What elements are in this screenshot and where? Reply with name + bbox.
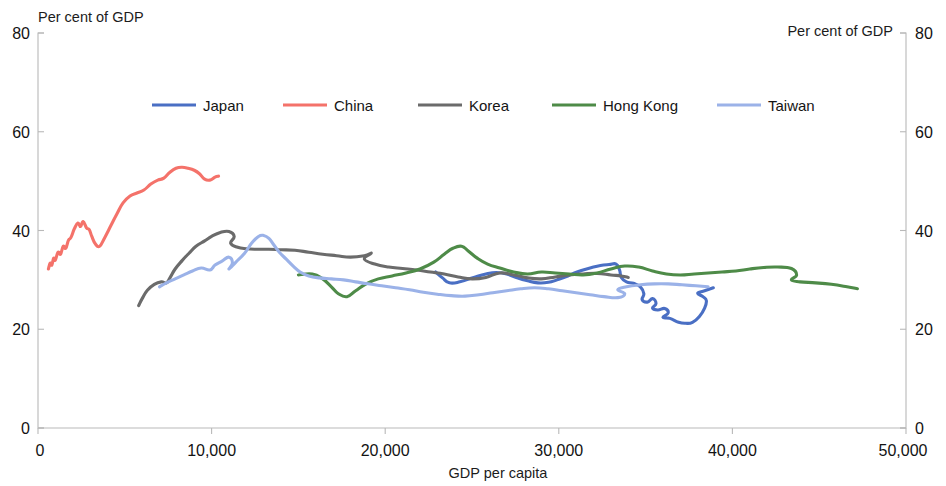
legend-label: Hong Kong <box>603 97 678 114</box>
y-label-right-80: 80 <box>915 25 933 42</box>
legend-item-taiwan[interactable]: Taiwan <box>717 97 815 114</box>
series-line-china <box>48 167 218 269</box>
right-axis-header: Per cent of GDP <box>787 23 893 39</box>
legend-item-hong-kong[interactable]: Hong Kong <box>552 97 678 114</box>
y-axis-right-ticks <box>900 33 906 428</box>
left-axis-header: Per cent of GDP <box>38 9 144 25</box>
legend-label: Japan <box>203 97 244 114</box>
y-label-left-0: 0 <box>21 420 30 437</box>
y-label-left-20: 20 <box>12 321 30 338</box>
x-label-0: 0 <box>36 442 45 459</box>
chart-svg: 80 60 40 20 0 80 60 40 20 0 0 10,000 20,… <box>0 0 946 486</box>
x-label-10000: 10,000 <box>187 442 236 459</box>
y-label-right-0: 0 <box>915 420 924 437</box>
legend-item-china[interactable]: China <box>283 97 374 114</box>
x-axis-labels: 0 10,000 20,000 30,000 40,000 50,000 <box>36 442 928 459</box>
legend-label: Taiwan <box>768 97 815 114</box>
x-label-40000: 40,000 <box>708 442 757 459</box>
y-label-right-20: 20 <box>915 321 933 338</box>
y-label-left-40: 40 <box>12 223 30 240</box>
x-axis-ticks <box>38 428 906 434</box>
y-label-left-80: 80 <box>12 25 30 42</box>
x-label-20000: 20,000 <box>361 442 410 459</box>
legend-label: Korea <box>469 97 510 114</box>
x-label-30000: 30,000 <box>534 442 583 459</box>
legend-label: China <box>334 97 374 114</box>
y-label-right-40: 40 <box>915 223 933 240</box>
chart-legend: JapanChinaKoreaHong KongTaiwan <box>152 97 815 114</box>
y-axis-left-ticks <box>38 33 44 428</box>
x-axis-title: GDP per capita <box>449 465 549 481</box>
y-axis-right-labels: 80 60 40 20 0 <box>915 25 933 437</box>
y-label-right-60: 60 <box>915 124 933 141</box>
series-layer <box>48 167 857 323</box>
legend-item-korea[interactable]: Korea <box>418 97 510 114</box>
y-axis-left-labels: 80 60 40 20 0 <box>12 25 30 437</box>
plot-frame <box>38 33 906 428</box>
legend-item-japan[interactable]: Japan <box>152 97 244 114</box>
chart-container: 80 60 40 20 0 80 60 40 20 0 0 10,000 20,… <box>0 0 946 486</box>
y-label-left-60: 60 <box>12 124 30 141</box>
x-label-50000: 50,000 <box>879 442 928 459</box>
